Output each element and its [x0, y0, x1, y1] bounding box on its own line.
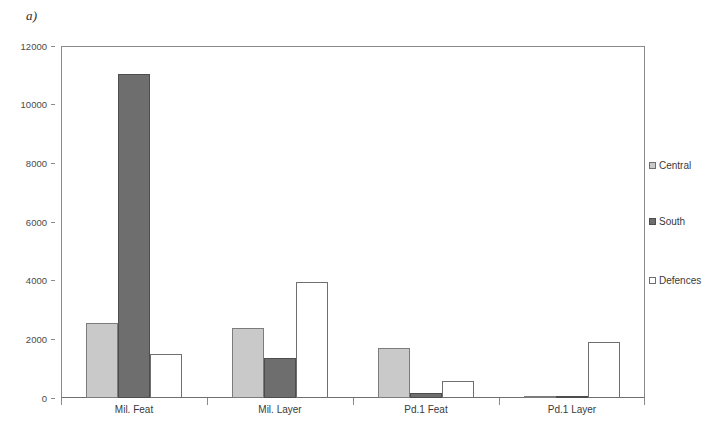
- y-axis-tick: 0: [42, 392, 55, 404]
- y-axis-tick: 6000: [26, 216, 55, 228]
- y-axis-tick: 12000: [21, 40, 55, 52]
- y-axis-tick-label: 8000: [26, 158, 51, 169]
- y-axis: 020004000600080001000012000: [0, 46, 55, 398]
- legend-item-south[interactable]: South: [649, 216, 685, 227]
- y-axis-tick: 8000: [26, 157, 55, 169]
- bar-defences-0: [150, 354, 182, 398]
- y-axis-tick-label: 6000: [26, 217, 51, 228]
- bar-defences-3: [588, 342, 620, 398]
- x-axis-category-label: Pd.1 Layer: [499, 404, 645, 415]
- legend-item-label: Central: [659, 160, 691, 171]
- y-axis-tick-mark: [51, 222, 55, 223]
- legend-item-label: Defences: [659, 275, 701, 286]
- legend-swatch-icon: [649, 162, 656, 169]
- legend-swatch-icon: [649, 218, 656, 225]
- y-axis-tick: 4000: [26, 275, 55, 287]
- bar-central-1: [232, 328, 264, 398]
- bar-defences-2: [442, 381, 474, 398]
- y-axis-tick: 2000: [26, 333, 55, 345]
- y-axis-tick-mark: [51, 398, 55, 399]
- x-axis-category-label: Pd.1 Feat: [353, 404, 499, 415]
- y-axis-tick-label: 2000: [26, 334, 51, 345]
- bar-central-2: [378, 348, 410, 398]
- figure-panel-label: a): [26, 8, 37, 24]
- y-axis-tick-mark: [51, 280, 55, 281]
- legend-item-label: South: [659, 216, 685, 227]
- legend-swatch-icon: [649, 277, 656, 284]
- x-axis-category-label: Mil. Layer: [207, 404, 353, 415]
- y-axis-tick-mark: [51, 46, 55, 47]
- bar-central-0: [86, 323, 118, 398]
- y-axis-tick-mark: [51, 339, 55, 340]
- chart-legend: CentralSouthDefences: [649, 46, 722, 398]
- legend-item-defences[interactable]: Defences: [649, 275, 701, 286]
- y-axis-tick: 10000: [21, 99, 55, 111]
- y-axis-tick-label: 10000: [21, 99, 51, 110]
- y-axis-tick-mark: [51, 163, 55, 164]
- y-axis-tick-label: 12000: [21, 41, 51, 52]
- x-axis-labels: Mil. FeatMil. LayerPd.1 FeatPd.1 Layer: [61, 404, 645, 424]
- legend-item-central[interactable]: Central: [649, 160, 691, 171]
- y-axis-tick-mark: [51, 104, 55, 105]
- x-axis-category-label: Mil. Feat: [61, 404, 207, 415]
- y-axis-tick-label: 0: [42, 393, 51, 404]
- bar-south-1: [264, 358, 296, 398]
- bar-defences-1: [296, 282, 328, 398]
- bars-layer: [61, 46, 645, 398]
- bar-south-0: [118, 74, 150, 398]
- y-axis-tick-label: 4000: [26, 275, 51, 286]
